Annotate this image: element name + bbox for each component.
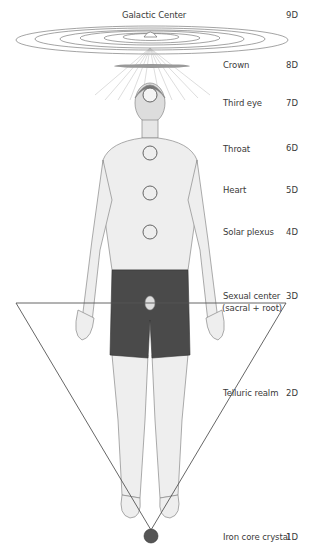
- crown-halo: [114, 64, 190, 68]
- label-iron-core-crystal: Iron core crystal: [223, 532, 290, 542]
- label-galactic-center: Galactic Center: [122, 10, 186, 20]
- iron-core-crystal-icon: [144, 529, 158, 543]
- dimension-2d: 2D: [286, 388, 298, 398]
- label-crown: Crown: [223, 60, 249, 70]
- label-heart: Heart: [223, 185, 246, 195]
- dimension-4d: 4D: [286, 227, 298, 237]
- label-telluric-realm: Telluric realm: [223, 388, 278, 398]
- shorts: [110, 270, 190, 358]
- label-sexual-center-sub: (sacral + root): [222, 303, 282, 313]
- dimension-9d: 9D: [286, 10, 298, 20]
- chakra-figure-illustration: [0, 0, 323, 552]
- dimension-5d: 5D: [286, 185, 298, 195]
- label-sexual-center: Sexual center: [223, 291, 280, 301]
- dimension-8d: 8D: [286, 60, 298, 70]
- label-solar-plexus: Solar plexus: [223, 227, 274, 237]
- dimension-3d: 3D: [286, 291, 298, 301]
- dimension-7d: 7D: [286, 98, 298, 108]
- third-eye-chakra-icon: [143, 88, 157, 102]
- label-throat: Throat: [223, 144, 250, 154]
- dimension-1d: 1D: [286, 532, 298, 542]
- label-third-eye: Third eye: [223, 98, 262, 108]
- dimension-6d: 6D: [286, 143, 298, 153]
